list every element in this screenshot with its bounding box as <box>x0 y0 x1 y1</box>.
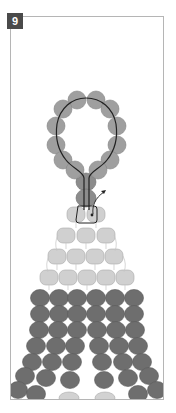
light-end-beads <box>59 392 115 404</box>
loop-beads <box>47 91 126 179</box>
needle-point <box>91 214 94 217</box>
dark-bead-fringe <box>9 290 167 403</box>
beading-diagram <box>0 0 176 413</box>
light-bead-pyramid <box>40 207 134 285</box>
